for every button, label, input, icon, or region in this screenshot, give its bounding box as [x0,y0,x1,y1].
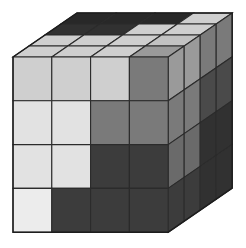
front-cell-r1-c1 [52,101,91,145]
front-cell-r2-c3 [129,145,168,189]
front-cell-r0-c1 [52,57,91,101]
cube-illustration-canvas [0,0,246,248]
front-cell-r0-c0 [13,57,52,101]
front-cell-r3-c1 [52,188,91,232]
front-face-group [13,57,168,232]
front-cell-r3-c2 [91,188,130,232]
cube-svg [0,0,246,248]
front-cell-r1-c3 [129,101,168,145]
front-cell-r0-c2 [91,57,130,101]
front-cell-r1-c2 [91,101,130,145]
front-cell-r3-c3 [129,188,168,232]
front-cell-r3-c0 [13,188,52,232]
front-cell-r1-c0 [13,101,52,145]
front-cell-r2-c1 [52,145,91,189]
front-cell-r0-c3 [129,57,168,101]
front-cell-r2-c0 [13,145,52,189]
front-cell-r2-c2 [91,145,130,189]
